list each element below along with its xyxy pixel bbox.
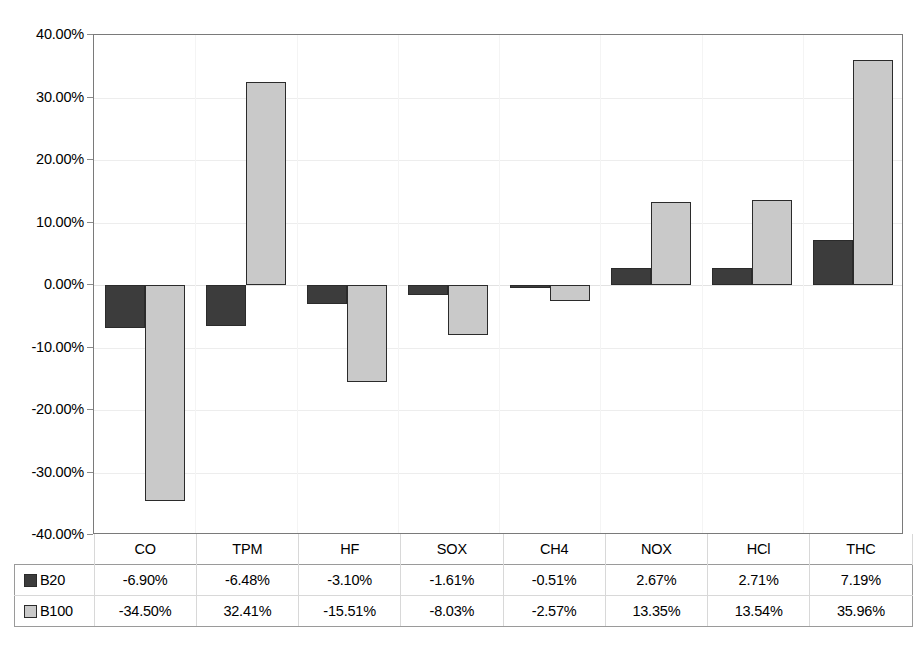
gridline bbox=[94, 473, 902, 474]
legend-entry-b20: B20 bbox=[15, 565, 95, 596]
legend-label: B20 bbox=[40, 572, 65, 588]
table-corner-cell bbox=[15, 534, 95, 565]
table-category-row: COTPMHFSOXCH4NOXHClTHC bbox=[15, 534, 913, 565]
bar-co-b20 bbox=[105, 285, 145, 328]
table-category-header-ch4: CH4 bbox=[503, 534, 605, 565]
data-table: COTPMHFSOXCH4NOXHClTHCB20-6.90%-6.48%-3.… bbox=[14, 534, 913, 627]
bar-hf-b20 bbox=[307, 285, 347, 304]
table-cell-hf-b100: -15.51% bbox=[299, 596, 401, 627]
gridline bbox=[94, 348, 902, 349]
table-cell-nox-b100: 13.35% bbox=[605, 596, 707, 627]
bar-thc-b100 bbox=[853, 60, 893, 285]
table-row: B20-6.90%-6.48%-3.10%-1.61%-0.51%2.67%2.… bbox=[15, 565, 913, 596]
y-tick-mark bbox=[87, 97, 93, 98]
table-cell-co-b20: -6.90% bbox=[94, 565, 196, 596]
bar-nox-b100 bbox=[651, 202, 691, 285]
y-tick-mark bbox=[87, 347, 93, 348]
gridline bbox=[94, 98, 902, 99]
table-cell-ch4-b20: -0.51% bbox=[503, 565, 605, 596]
table-cell-hf-b20: -3.10% bbox=[299, 565, 401, 596]
legend-entry-b100: B100 bbox=[15, 596, 95, 627]
bar-hf-b100 bbox=[347, 285, 387, 382]
y-tick-label: 30.00% bbox=[0, 90, 84, 104]
table-cell-ch4-b100: -2.57% bbox=[503, 596, 605, 627]
bar-ch4-b20 bbox=[510, 285, 550, 288]
table-category-header-nox: NOX bbox=[605, 534, 707, 565]
table-row: B100-34.50%32.41%-15.51%-8.03%-2.57%13.3… bbox=[15, 596, 913, 627]
table-category-header-sox: SOX bbox=[401, 534, 503, 565]
category-separator bbox=[803, 35, 804, 533]
legend-swatch-icon bbox=[24, 574, 37, 587]
bar-tpm-b20 bbox=[206, 285, 246, 326]
legend-label: B100 bbox=[40, 603, 73, 619]
bar-tpm-b100 bbox=[246, 82, 286, 285]
y-tick-mark bbox=[87, 222, 93, 223]
gridline bbox=[94, 160, 902, 161]
bar-ch4-b100 bbox=[550, 285, 590, 301]
y-tick-mark bbox=[87, 409, 93, 410]
plot-area bbox=[93, 34, 903, 534]
table-cell-thc-b20: 7.19% bbox=[810, 565, 912, 596]
y-tick-mark bbox=[87, 159, 93, 160]
bar-hcl-b20 bbox=[712, 268, 752, 285]
table-category-header-tpm: TPM bbox=[196, 534, 298, 565]
category-separator bbox=[499, 35, 500, 533]
table-cell-co-b100: -34.50% bbox=[94, 596, 196, 627]
bar-sox-b20 bbox=[408, 285, 448, 295]
y-tick-mark bbox=[87, 534, 93, 535]
bar-nox-b20 bbox=[611, 268, 651, 285]
bar-co-b100 bbox=[145, 285, 185, 501]
y-tick-mark bbox=[87, 284, 93, 285]
category-separator bbox=[195, 35, 196, 533]
table-cell-sox-b20: -1.61% bbox=[401, 565, 503, 596]
y-tick-mark bbox=[87, 34, 93, 35]
legend-swatch-icon bbox=[24, 605, 37, 618]
table-cell-hcl-b100: 13.54% bbox=[708, 596, 810, 627]
category-separator bbox=[398, 35, 399, 533]
category-separator bbox=[702, 35, 703, 533]
emissions-percent-change-chart: 40.00%30.00%20.00%10.00%0.00%-10.00%-20.… bbox=[0, 0, 922, 654]
y-tick-label: -20.00% bbox=[0, 402, 84, 416]
table-cell-hcl-b20: 2.71% bbox=[708, 565, 810, 596]
y-tick-label: 20.00% bbox=[0, 152, 84, 166]
table-category-header-hf: HF bbox=[299, 534, 401, 565]
y-tick-mark bbox=[87, 472, 93, 473]
y-tick-label: -10.00% bbox=[0, 340, 84, 354]
y-tick-label: 40.00% bbox=[0, 27, 84, 41]
bar-thc-b20 bbox=[813, 240, 853, 285]
category-separator bbox=[297, 35, 298, 533]
table-cell-nox-b20: 2.67% bbox=[605, 565, 707, 596]
category-separator bbox=[600, 35, 601, 533]
table-cell-sox-b100: -8.03% bbox=[401, 596, 503, 627]
y-tick-label: 10.00% bbox=[0, 215, 84, 229]
y-tick-label: -30.00% bbox=[0, 465, 84, 479]
gridline bbox=[94, 410, 902, 411]
table-category-header-co: CO bbox=[94, 534, 196, 565]
table-category-header-thc: THC bbox=[810, 534, 912, 565]
bar-hcl-b100 bbox=[752, 200, 792, 285]
table-category-header-hcl: HCl bbox=[708, 534, 810, 565]
table-cell-tpm-b20: -6.48% bbox=[196, 565, 298, 596]
data-table-body: COTPMHFSOXCH4NOXHClTHCB20-6.90%-6.48%-3.… bbox=[15, 534, 913, 627]
table-cell-thc-b100: 35.96% bbox=[810, 596, 912, 627]
table-cell-tpm-b100: 32.41% bbox=[196, 596, 298, 627]
y-tick-label: 0.00% bbox=[0, 277, 84, 291]
bar-sox-b100 bbox=[448, 285, 488, 335]
